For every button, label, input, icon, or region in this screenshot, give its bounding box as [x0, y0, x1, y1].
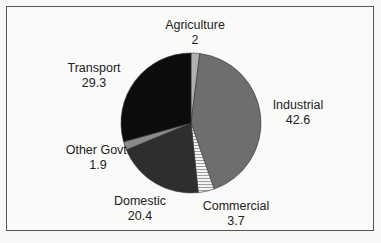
label-industrial: Industrial 42.6: [263, 98, 333, 128]
label-agriculture-name: Agriculture: [160, 18, 230, 33]
label-industrial-value: 42.6: [263, 113, 333, 128]
label-industrial-name: Industrial: [263, 98, 333, 113]
label-other-govt: Other Govt. 1.9: [58, 143, 138, 173]
label-commercial-value: 3.7: [196, 214, 276, 229]
label-commercial-name: Commercial: [196, 199, 276, 214]
label-transport-name: Transport: [59, 61, 129, 76]
label-commercial: Commercial 3.7: [196, 199, 276, 229]
label-domestic-value: 20.4: [105, 209, 175, 224]
label-other-govt-name: Other Govt.: [58, 143, 138, 158]
label-transport: Transport 29.3: [59, 61, 129, 91]
label-other-govt-value: 1.9: [58, 158, 138, 173]
label-transport-value: 29.3: [59, 76, 129, 91]
label-agriculture-value: 2: [160, 33, 230, 48]
label-agriculture: Agriculture 2: [160, 18, 230, 48]
label-domestic-name: Domestic: [105, 194, 175, 209]
label-domestic: Domestic 20.4: [105, 194, 175, 224]
